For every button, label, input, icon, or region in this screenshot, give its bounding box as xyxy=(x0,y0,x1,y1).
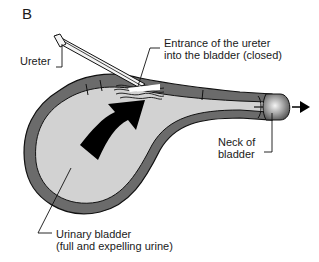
label-ureter-entrance: Entrance of the ureter into the bladder … xyxy=(164,37,282,61)
label-bladder-line1: Urinary bladder xyxy=(56,228,173,240)
arrow-right-icon xyxy=(292,101,310,113)
label-neck-line1: Neck of xyxy=(218,136,255,148)
label-neck-of-bladder: Neck of bladder xyxy=(218,136,255,160)
label-urinary-bladder: Urinary bladder (full and expelling urin… xyxy=(56,228,173,252)
label-bladder-line2: (full and expelling urine) xyxy=(56,240,173,252)
panel-letter: B xyxy=(22,5,32,22)
label-entrance-line2: into the bladder (closed) xyxy=(164,49,282,61)
label-entrance-line1: Entrance of the ureter xyxy=(164,37,282,49)
label-neck-line2: bladder xyxy=(218,148,255,160)
bladder-diagram: B Ureter Entrance of the ureter into the… xyxy=(0,0,319,262)
label-ureter: Ureter xyxy=(20,55,51,67)
label-ureter-text: Ureter xyxy=(20,55,51,67)
bladder-neck xyxy=(263,94,290,120)
